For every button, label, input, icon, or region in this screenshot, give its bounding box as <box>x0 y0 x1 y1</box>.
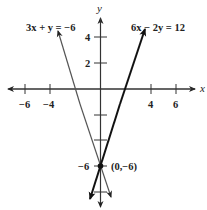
line2-arrow-down-icon <box>90 104 120 199</box>
x-tick-label-6: 6 <box>173 99 178 110</box>
line2-arrow-up-icon <box>120 29 145 104</box>
y-axis: y 4 2 −6 <box>78 2 107 207</box>
linear-equations-graph: x −6 −4 4 6 y 4 2 −6 3x + y = −6 6x − 2y <box>0 0 207 210</box>
x-axis-label: x <box>199 82 205 94</box>
x-tick-label-m4: −4 <box>43 99 55 110</box>
line2-label: 6x − 2y = 12 <box>131 22 185 33</box>
intersection-point-icon <box>98 163 104 169</box>
y-tick-label-2: 2 <box>85 58 90 69</box>
y-tick-label-4: 4 <box>85 32 91 43</box>
intersection-label: (0,−6) <box>111 161 138 173</box>
line1-label: 3x + y = −6 <box>26 22 75 33</box>
line1-arrow-up-icon <box>58 31 80 104</box>
x-tick-label-4: 4 <box>148 99 154 110</box>
x-axis: x −6 −4 4 6 <box>8 82 205 110</box>
y-tick-label-m6: −6 <box>78 161 89 172</box>
x-tick-label-m6: −6 <box>19 99 30 110</box>
line-6x-minus-2y-eq-12: 6x − 2y = 12 <box>90 22 185 199</box>
y-axis-label: y <box>96 2 102 14</box>
